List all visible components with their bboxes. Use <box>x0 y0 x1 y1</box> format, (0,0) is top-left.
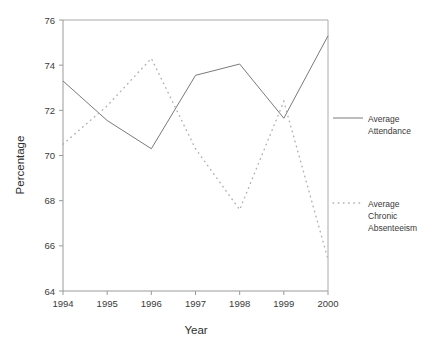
x-axis-ticks <box>63 291 328 295</box>
y-tick-label: 68 <box>44 195 55 206</box>
y-axis-ticks <box>59 20 63 291</box>
x-tick-label: 1995 <box>97 298 118 309</box>
y-tick-label: 76 <box>44 15 55 26</box>
legend-item-1-line3: Absenteeism <box>368 223 417 233</box>
data-series-group <box>63 36 328 260</box>
y-tick-label: 74 <box>44 60 55 71</box>
series-line-0 <box>63 36 328 149</box>
x-tick-label: 1996 <box>141 298 162 309</box>
legend-item-1-line2: Chronic <box>368 211 398 221</box>
legend-item-0-line1: Average <box>368 114 400 124</box>
y-tick-label: 64 <box>44 286 55 297</box>
plot-frame <box>63 20 328 291</box>
y-tick-label: 72 <box>44 105 55 116</box>
x-tick-label: 2000 <box>317 298 338 309</box>
x-tick-label: 1994 <box>52 298 73 309</box>
series-line-1 <box>63 58 328 259</box>
x-axis-title: Year <box>184 324 207 336</box>
chart-container: 64666870727476 1994199519961997199819992… <box>0 0 433 350</box>
legend-swatches <box>333 118 363 203</box>
line-chart: 64666870727476 1994199519961997199819992… <box>0 0 433 350</box>
legend: Average Attendance Average Chronic Absen… <box>368 114 417 233</box>
legend-item-1-line1: Average <box>368 199 400 209</box>
x-tick-label: 1997 <box>185 298 206 309</box>
x-axis-tick-labels: 1994199519961997199819992000 <box>52 298 338 309</box>
x-tick-label: 1999 <box>273 298 294 309</box>
y-tick-label: 70 <box>44 150 55 161</box>
y-axis-title: Percentage <box>14 136 26 195</box>
x-tick-label: 1998 <box>229 298 250 309</box>
legend-item-0-line2: Attendance <box>368 126 411 136</box>
y-tick-label: 66 <box>44 240 55 251</box>
y-axis-tick-labels: 64666870727476 <box>44 15 55 297</box>
